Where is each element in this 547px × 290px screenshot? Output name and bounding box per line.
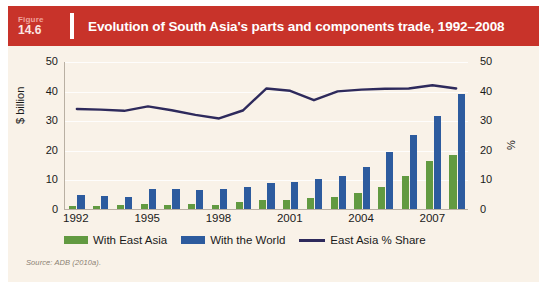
right-axis-ticks: 01020304050 (474, 62, 500, 210)
figure-number: 14.6 (18, 24, 70, 37)
left-axis-tick-label: 30 (46, 115, 58, 126)
right-axis-tick-label: 10 (480, 174, 492, 185)
right-axis-tick-label: 50 (480, 56, 492, 67)
right-axis-tick-label: 0 (480, 204, 486, 215)
figure-number-block: Figure 14.6 (18, 16, 70, 37)
legend-item[interactable]: East Asia % Share (299, 234, 425, 246)
banner-divider-rule (70, 13, 74, 39)
left-axis-title: $ billion (14, 87, 26, 124)
left-axis-tick-label: 20 (46, 145, 58, 156)
left-axis-tick-label: 10 (46, 174, 58, 185)
legend-label: East Asia % Share (330, 234, 425, 246)
left-axis-tick-label: 40 (46, 86, 58, 97)
figure-card: Figure 14.6 Evolution of South Asia's pa… (8, 6, 539, 282)
legend-label: With East Asia (93, 234, 167, 246)
legend-label: With the World (210, 234, 285, 246)
legend-item[interactable]: With the World (181, 234, 285, 246)
plot-frame (64, 62, 468, 210)
legend-item[interactable]: With East Asia (64, 234, 167, 246)
x-axis-tick-label: 2007 (420, 212, 446, 224)
figure-title: Evolution of South Asia's parts and comp… (88, 19, 505, 34)
x-axis-tick-label: 2001 (277, 212, 303, 224)
line-series-layer (65, 62, 468, 209)
right-axis-tick-label: 20 (480, 145, 492, 156)
figure-header-banner: Figure 14.6 Evolution of South Asia's pa… (8, 6, 539, 46)
blue-swatch-icon (181, 236, 205, 244)
source-note: Source: ADB (2010a). (26, 258, 101, 267)
chart-legend: With East AsiaWith the WorldEast Asia % … (64, 232, 484, 248)
plot-wrapper (64, 62, 468, 210)
line-swatch-icon (299, 239, 325, 242)
left-axis-tick-label: 50 (46, 56, 58, 67)
green-swatch-icon (64, 236, 88, 244)
x-axis-labels: 199219951998200120042007 (64, 212, 468, 228)
left-axis-tick-label: 0 (52, 204, 58, 215)
x-axis-tick-label: 1992 (63, 212, 89, 224)
chart-area: $ billion % 01020304050 01020304050 1992… (8, 46, 539, 282)
right-axis-tick-label: 30 (480, 115, 492, 126)
east-asia-share-line (77, 85, 456, 118)
x-axis-tick-label: 2004 (348, 212, 374, 224)
x-axis-tick-label: 1995 (134, 212, 160, 224)
x-axis-tick-label: 1998 (206, 212, 232, 224)
right-axis-tick-label: 40 (480, 86, 492, 97)
left-axis-ticks: 01020304050 (34, 62, 60, 210)
right-axis-title: % (505, 140, 517, 150)
